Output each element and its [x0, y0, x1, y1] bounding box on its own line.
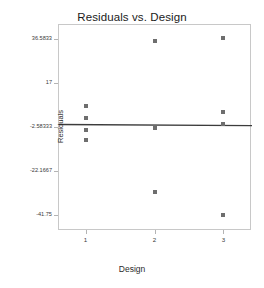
data-point [221, 36, 225, 40]
data-point [221, 213, 225, 217]
y-axis-tick-label: -2.58333 [30, 124, 52, 130]
y-axis-tick-label: -22.1667 [30, 168, 52, 174]
y-axis-tick-mark [54, 215, 58, 216]
y-axis-tick-mark [54, 39, 58, 40]
x-axis-label: Design [0, 264, 264, 274]
x-axis-tick-mark [86, 230, 87, 234]
x-axis-tick-label: 1 [76, 237, 96, 243]
x-axis-tick-mark [223, 230, 224, 234]
data-point [153, 190, 157, 194]
y-axis-tick-mark [54, 171, 58, 172]
x-axis-tick-mark [155, 230, 156, 234]
x-axis-tick-label: 3 [213, 237, 233, 243]
data-point [84, 116, 88, 120]
data-point [221, 122, 225, 126]
data-point [84, 138, 88, 142]
residual-plot-figure: Residuals vs. Design Residuals Design 36… [0, 0, 264, 288]
data-point [84, 128, 88, 132]
data-point [84, 104, 88, 108]
y-axis-tick-label: -41.75 [36, 212, 52, 218]
x-axis-tick-label: 2 [145, 237, 165, 243]
data-point [153, 126, 157, 130]
data-point [153, 39, 157, 43]
y-axis-tick-mark [54, 83, 58, 84]
y-axis-tick-mark [54, 127, 58, 128]
y-axis-tick-label: 36.5833 [32, 36, 52, 42]
data-point [221, 110, 225, 114]
page-title: Residuals vs. Design [0, 11, 264, 23]
y-axis-tick-label: 17 [46, 80, 52, 86]
